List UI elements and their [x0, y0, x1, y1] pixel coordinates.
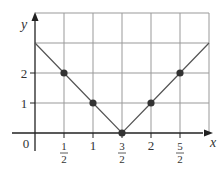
x-tick-label-numerator: 5	[177, 140, 183, 152]
y-tick-label: 1	[21, 96, 28, 111]
x-tick-label: 2	[148, 138, 155, 153]
data-point	[118, 129, 125, 136]
x-axis-label: x	[209, 135, 217, 150]
tick-labels: 12012132252xy	[19, 17, 217, 165]
x-tick-label-numerator: 3	[119, 140, 125, 152]
origin-label: 0	[23, 136, 30, 151]
x-tick-label-denominator: 2	[61, 153, 67, 165]
data-point	[147, 99, 154, 106]
data-point	[60, 69, 67, 76]
axes	[12, 12, 213, 151]
chart-plot: 12012132252xy	[0, 0, 221, 174]
x-tick-label: 1	[90, 138, 97, 153]
y-axis-label: y	[19, 17, 28, 32]
x-tick-label-denominator: 2	[119, 153, 125, 165]
data-point	[176, 69, 183, 76]
x-tick-label-numerator: 1	[61, 140, 67, 152]
x-tick-label-denominator: 2	[177, 153, 183, 165]
data-point	[89, 99, 96, 106]
y-tick-label: 2	[21, 66, 28, 81]
